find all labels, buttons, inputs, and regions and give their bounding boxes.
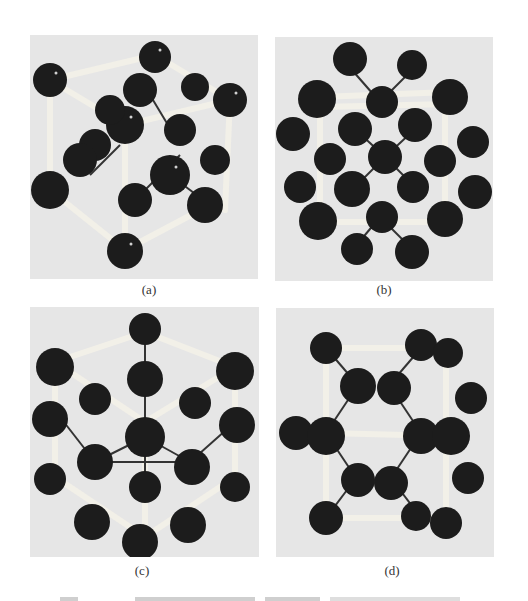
crystal-model-d-image bbox=[276, 308, 494, 557]
figure-panel-c bbox=[30, 307, 259, 557]
figure-panel-d bbox=[276, 308, 494, 557]
crystal-model-a-image bbox=[30, 35, 258, 279]
crystal-model-c-image bbox=[30, 307, 259, 557]
crystal-model-b-image bbox=[275, 37, 493, 281]
panel-label-c: (c) bbox=[122, 563, 162, 579]
figure-panel-a bbox=[30, 35, 258, 279]
panel-label-a: (a) bbox=[129, 282, 169, 298]
panel-label-d: (d) bbox=[372, 563, 412, 579]
figure-caption-cropped bbox=[60, 594, 470, 601]
panel-label-b: (b) bbox=[364, 282, 404, 298]
figure-panel-b bbox=[275, 37, 493, 281]
